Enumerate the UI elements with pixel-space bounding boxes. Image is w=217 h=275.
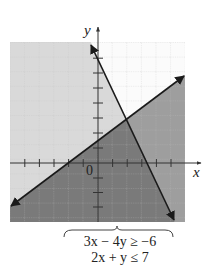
origin-label: 0: [86, 163, 93, 179]
inequality-1: 3x − 4y ≥ −6: [55, 234, 185, 250]
inequality-2: 2x + y ≤ 7: [55, 250, 185, 266]
y-axis-label: y: [84, 22, 91, 39]
x-axis-label: x: [193, 164, 200, 181]
